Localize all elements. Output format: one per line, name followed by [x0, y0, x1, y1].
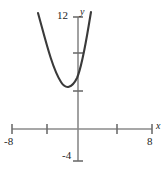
coordinate-plane-svg	[0, 0, 168, 170]
y-axis-name-label: y	[80, 6, 84, 17]
parabola-graph-figure: 12 -4 -8 8 x y	[0, 0, 168, 170]
y-min-label: -4	[62, 150, 71, 161]
y-max-label: 12	[57, 10, 68, 21]
x-max-label: 8	[147, 136, 153, 147]
x-min-label: -8	[4, 136, 13, 147]
parabola-curve	[38, 12, 91, 87]
x-axis-name-label: x	[156, 120, 160, 131]
